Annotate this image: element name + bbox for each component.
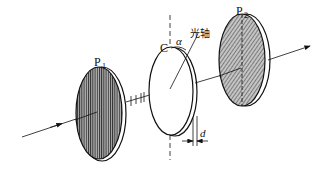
label-c: C [160,41,168,55]
polarization-interference-diagram: P 1 C α 光轴 d P 2 [0,0,329,173]
label-p1: P [94,55,101,69]
polarizer-p1 [75,67,126,161]
label-optic-axis: 光轴 [190,27,210,39]
label-p2: P [236,4,243,18]
wave-plate-c [149,33,198,136]
analyzer-p2 [219,14,270,106]
outgoing-light-ray [268,46,310,60]
label-p2-subscript: 2 [244,11,248,20]
label-d: d [200,127,206,139]
label-alpha: α [176,35,182,47]
label-p1-subscript: 1 [102,62,106,71]
